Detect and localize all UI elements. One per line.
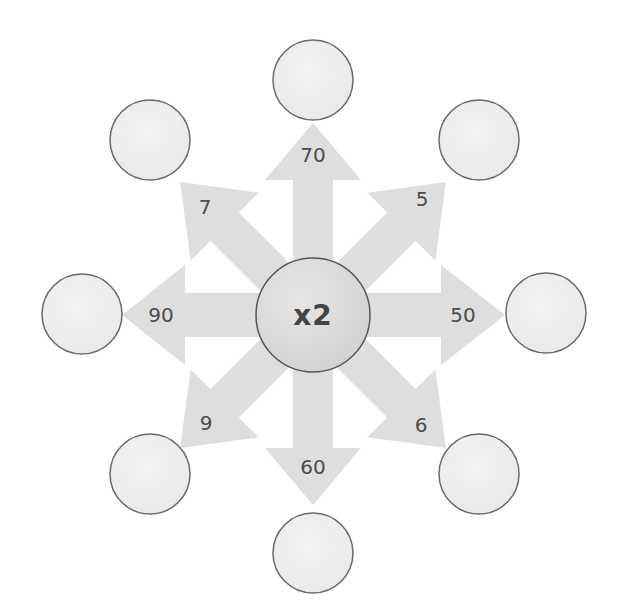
answer-circle-right[interactable]	[506, 273, 586, 353]
arrow-label-down-left: 9	[200, 411, 213, 435]
arrow-label-down-right: 6	[415, 413, 428, 437]
answer-circle-top-right[interactable]	[439, 100, 519, 180]
arrow-label-left: 90	[148, 303, 173, 327]
answer-circle-top[interactable]	[273, 40, 353, 120]
arrow-label-right: 50	[450, 303, 475, 327]
multiplication-web-diagram: 70 5 50 6 60 9 90 7	[0, 0, 619, 613]
center-operator-label: x2	[293, 299, 333, 332]
arrow-label-up-left: 7	[199, 195, 212, 219]
answer-circle-left[interactable]	[42, 274, 122, 354]
answer-circle-top-left[interactable]	[110, 100, 190, 180]
arrow-label-down: 60	[300, 455, 325, 479]
answer-circle-bottom-left[interactable]	[110, 434, 190, 514]
arrow-label-up-right: 5	[416, 187, 429, 211]
answer-circle-bottom-right[interactable]	[439, 434, 519, 514]
answer-circle-bottom[interactable]	[273, 513, 353, 593]
center-operator: x2	[256, 258, 370, 372]
arrow-label-up: 70	[300, 143, 325, 167]
